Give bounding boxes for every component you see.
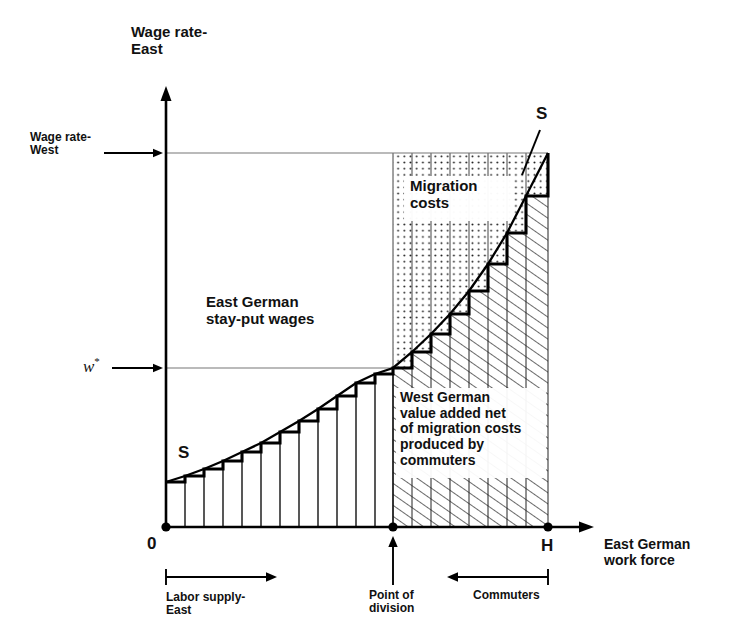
region-label-stayput-wages: East Germanstay-put wages xyxy=(206,294,314,328)
h-point-dot xyxy=(543,522,552,531)
w-star-pointer-head xyxy=(153,364,163,372)
supply-curve-label-left: S xyxy=(178,443,189,462)
point-of-division-dot xyxy=(388,522,397,531)
x-axis-title: East Germanwork force xyxy=(604,537,690,568)
figure-canvas: Wage rate-East Wage rate-West w* S S Eas… xyxy=(0,0,748,644)
origin-dot xyxy=(161,522,170,531)
supply-curve-label-right: S xyxy=(536,104,547,123)
h-label: H xyxy=(541,536,553,555)
bracket-label-labor-supply: Labor supply-East xyxy=(166,591,245,618)
region-label-value-added: West Germanvalue added netof migration c… xyxy=(400,390,521,468)
w-star-label: w* xyxy=(83,355,100,376)
x-axis-arrowhead xyxy=(579,522,594,533)
wage-west-pointer-head xyxy=(153,149,163,157)
labor-supply-bracket-head xyxy=(266,572,277,582)
commuters-bracket-head xyxy=(447,572,458,582)
point-of-division-pointer-head xyxy=(388,536,397,547)
bracket-label-commuters: Commuters xyxy=(473,589,540,602)
bracket-label-point-of-division: Point ofdivision xyxy=(369,589,414,616)
y-axis-title: Wage rate-East xyxy=(131,24,207,58)
wage-rate-west-label: Wage rate-West xyxy=(30,131,91,158)
origin-label: 0 xyxy=(147,534,156,553)
stayput-wages-region xyxy=(166,368,393,527)
y-axis-arrowhead xyxy=(161,86,172,101)
region-label-migration-costs: Migrationcosts xyxy=(410,178,478,212)
